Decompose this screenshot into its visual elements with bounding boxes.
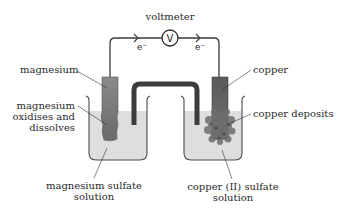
label-magnesium: magnesium bbox=[20, 64, 79, 75]
galvanic-cell-diagram: e⁻ e⁻ V voltmeter m bbox=[0, 0, 339, 217]
label-mg-solution-1: magnesium sulfate bbox=[46, 180, 142, 191]
electron-label-left: e⁻ bbox=[137, 42, 147, 52]
voltmeter: V bbox=[162, 30, 178, 46]
label-cu-solution-2: solution bbox=[213, 192, 254, 203]
label-cu-solution-1: copper (II) sulfate bbox=[187, 181, 279, 192]
label-mg-oxidises-1: magnesium bbox=[17, 100, 76, 111]
electron-label-right: e⁻ bbox=[195, 42, 205, 52]
label-mg-oxidises-3: dissolves bbox=[29, 122, 75, 133]
label-copper-deposits: copper deposits bbox=[253, 108, 334, 119]
label-mg-oxidises-2: oxidises and bbox=[12, 111, 75, 122]
magnesium-sulfate-solution bbox=[89, 111, 147, 160]
voltmeter-symbol: V bbox=[167, 33, 174, 44]
label-mg-solution-2: solution bbox=[74, 191, 115, 202]
label-copper: copper bbox=[253, 64, 288, 75]
voltmeter-label: voltmeter bbox=[144, 11, 194, 22]
magnesium-electrode bbox=[101, 77, 118, 141]
